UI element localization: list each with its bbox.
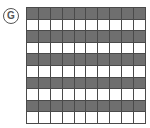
grid-cell-empty: [98, 89, 109, 100]
grid-cell-empty: [86, 66, 97, 77]
grid-cell-shaded: [86, 101, 97, 112]
grid-cell-empty: [98, 43, 109, 54]
grid-cell-shaded: [39, 78, 50, 89]
hundred-grid: [26, 7, 146, 124]
grid-cell-shaded: [110, 101, 121, 112]
grid-cell-empty: [27, 112, 38, 123]
grid-cell-shaded: [98, 54, 109, 65]
grid-cell-empty: [122, 89, 133, 100]
grid-cell-empty: [110, 20, 121, 31]
grid-cell-empty: [39, 20, 50, 31]
grid-cell-empty: [86, 89, 97, 100]
grid-cell-shaded: [75, 101, 86, 112]
grid-cell-shaded: [122, 101, 133, 112]
grid-cell-empty: [134, 43, 145, 54]
grid-cell-empty: [51, 66, 62, 77]
grid-cell-empty: [86, 112, 97, 123]
grid-cell-empty: [51, 89, 62, 100]
grid-cell-empty: [51, 20, 62, 31]
grid-cell-shaded: [75, 8, 86, 19]
grid-cell-empty: [75, 89, 86, 100]
grid-cell-shaded: [27, 31, 38, 42]
grid-cell-shaded: [75, 78, 86, 89]
grid-cell-empty: [134, 89, 145, 100]
grid-cell-shaded: [27, 101, 38, 112]
grid-cell-empty: [122, 20, 133, 31]
grid-cell-shaded: [27, 8, 38, 19]
grid-cell-empty: [98, 20, 109, 31]
grid-cell-shaded: [39, 101, 50, 112]
grid-cell-empty: [110, 112, 121, 123]
grid-cell-empty: [122, 43, 133, 54]
grid-cell-shaded: [122, 8, 133, 19]
grid-cell-shaded: [27, 54, 38, 65]
grid-cell-empty: [134, 66, 145, 77]
grid-cell-shaded: [110, 8, 121, 19]
grid-cell-shaded: [63, 101, 74, 112]
grid-cell-shaded: [51, 31, 62, 42]
grid-cell-shaded: [122, 31, 133, 42]
grid-cell-shaded: [134, 31, 145, 42]
grid-cell-shaded: [39, 31, 50, 42]
grid-cell-shaded: [63, 54, 74, 65]
grid-cell-empty: [51, 112, 62, 123]
grid-cell-shaded: [86, 31, 97, 42]
grid-cell-empty: [63, 89, 74, 100]
grid-cell-shaded: [134, 78, 145, 89]
grid-cell-empty: [110, 43, 121, 54]
grid-cell-empty: [27, 20, 38, 31]
grid-cell-shaded: [63, 8, 74, 19]
grid-cell-shaded: [39, 54, 50, 65]
grid-cell-shaded: [122, 78, 133, 89]
grid-cell-empty: [75, 112, 86, 123]
grid-cell-empty: [63, 66, 74, 77]
grid-cell-empty: [134, 20, 145, 31]
grid-cell-shaded: [98, 78, 109, 89]
grid-cell-shaded: [98, 31, 109, 42]
grid-cell-empty: [122, 112, 133, 123]
grid-cell-empty: [134, 112, 145, 123]
grid-cell-empty: [27, 89, 38, 100]
grid-cell-shaded: [63, 78, 74, 89]
grid-cell-empty: [98, 66, 109, 77]
grid-cell-shaded: [98, 101, 109, 112]
grid-cell-empty: [39, 66, 50, 77]
grid-cell-empty: [86, 20, 97, 31]
grid-cell-empty: [39, 43, 50, 54]
grid-cell-shaded: [51, 54, 62, 65]
grid-cell-shaded: [51, 78, 62, 89]
grid-cell-empty: [122, 66, 133, 77]
grid-cell-empty: [27, 43, 38, 54]
grid-cell-shaded: [134, 54, 145, 65]
grid-cell-empty: [27, 66, 38, 77]
grid-cell-shaded: [63, 31, 74, 42]
grid-cell-shaded: [39, 8, 50, 19]
grid-cell-empty: [98, 112, 109, 123]
grid-cell-shaded: [51, 101, 62, 112]
grid-cell-shaded: [27, 78, 38, 89]
grid-cell-empty: [75, 66, 86, 77]
grid-cell-shaded: [98, 8, 109, 19]
option-label-g: G: [3, 8, 19, 24]
grid-cell-shaded: [110, 78, 121, 89]
grid-cell-empty: [110, 66, 121, 77]
grid-cell-shaded: [51, 8, 62, 19]
grid-cell-shaded: [110, 31, 121, 42]
grid-cell-shaded: [86, 8, 97, 19]
grid-cell-empty: [110, 89, 121, 100]
grid-cell-shaded: [86, 78, 97, 89]
grid-cell-empty: [51, 43, 62, 54]
grid-cell-empty: [63, 43, 74, 54]
grid-cell-shaded: [122, 54, 133, 65]
grid-cell-shaded: [110, 54, 121, 65]
grid-cell-empty: [63, 112, 74, 123]
grid-cell-empty: [39, 112, 50, 123]
grid-cell-shaded: [75, 54, 86, 65]
grid-cell-shaded: [134, 8, 145, 19]
grid-cell-shaded: [86, 54, 97, 65]
grid-cell-shaded: [75, 31, 86, 42]
grid-cell-empty: [39, 89, 50, 100]
grid-cell-empty: [75, 20, 86, 31]
grid-cell-shaded: [134, 101, 145, 112]
grid-cell-empty: [75, 43, 86, 54]
